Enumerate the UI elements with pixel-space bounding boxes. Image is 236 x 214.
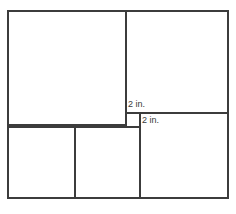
region-fills [8,11,228,198]
region-top-left-square [8,11,126,125]
region-right-rectangle [140,113,228,198]
region-top-right-square [126,11,228,113]
region-small-square [126,113,140,127]
dimension-label-small-square-width: 2 in. [127,99,146,109]
dimension-label-small-square-height: 2 in. [141,115,160,125]
geometry-figure: 2 in. 2 in. [0,0,236,214]
region-bottom-mid-square [75,127,140,198]
figure-canvas [0,0,236,214]
region-bottom-left-square [8,127,75,198]
